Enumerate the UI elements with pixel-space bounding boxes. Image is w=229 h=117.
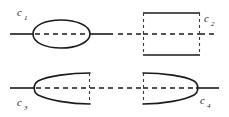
label-c1-subscript: 1 — [24, 14, 28, 22]
label-c2-subscript: 2 — [211, 20, 215, 28]
label-c1: c 1 — [17, 7, 28, 22]
panel-c3: c 3 — [10, 73, 113, 112]
contour-figure: c 1 c 2 — [0, 0, 229, 117]
label-c4: c 4 — [200, 95, 211, 110]
label-c3-base: c — [17, 97, 22, 108]
label-c2-base: c — [204, 13, 209, 24]
figure-container: c 1 c 2 — [0, 0, 229, 117]
label-c2: c 2 — [204, 13, 215, 28]
label-c4-subscript: 4 — [207, 102, 211, 110]
label-c3-subscript: 3 — [23, 104, 28, 112]
label-c4-base: c — [200, 95, 205, 106]
panel-c1: c 1 — [10, 7, 113, 48]
panel-c2: c 2 — [118, 13, 216, 55]
label-c3: c 3 — [17, 97, 28, 112]
label-c1-base: c — [17, 7, 22, 18]
panel-c4: c 4 — [118, 73, 219, 110]
